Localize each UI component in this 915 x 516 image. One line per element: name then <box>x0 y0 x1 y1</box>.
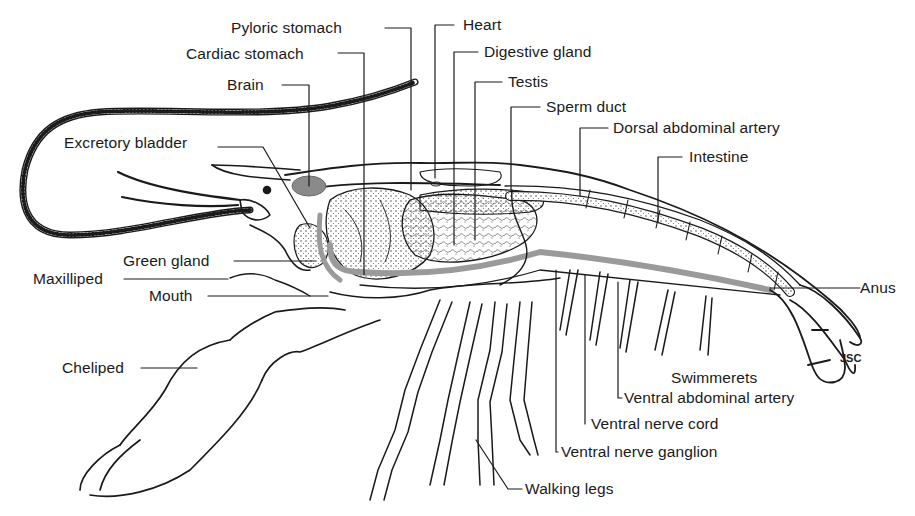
label-anus: Anus <box>860 279 896 297</box>
label-green-gland: Green gland <box>123 252 209 270</box>
cheliped <box>80 308 380 496</box>
label-ventral-abdominal-artery: Ventral abdominal artery <box>624 389 794 407</box>
walking-legs <box>330 278 560 500</box>
antennules <box>118 172 240 206</box>
label-dorsal-abdominal-artery: Dorsal abdominal artery <box>613 119 780 137</box>
label-intestine: Intestine <box>689 148 749 166</box>
label-pyloric-stomach: Pyloric stomach <box>231 19 342 37</box>
label-maxilliped: Maxilliped <box>33 270 103 288</box>
label-cardiac-stomach: Cardiac stomach <box>186 45 304 63</box>
label-swimmerets: Swimmerets <box>671 369 757 387</box>
label-walking-legs: Walking legs <box>525 480 614 498</box>
crayfish-anatomy-diagram: Pyloric stomach Cardiac stomach Brain Ex… <box>0 0 915 516</box>
maxilliped-shape <box>230 274 310 296</box>
label-ventral-nerve-ganglion: Ventral nerve ganglion <box>561 443 717 461</box>
label-excretory-bladder: Excretory bladder <box>64 134 187 152</box>
abdomen-tubes <box>505 186 800 292</box>
label-cheliped: Cheliped <box>62 359 124 377</box>
label-ventral-nerve-cord: Ventral nerve cord <box>591 415 719 433</box>
tail-fan <box>770 285 861 383</box>
label-heart: Heart <box>463 16 501 34</box>
swimmerets <box>560 270 712 355</box>
label-testis: Testis <box>508 73 548 91</box>
artist-signature: JSC <box>840 352 861 364</box>
label-sperm-duct: Sperm duct <box>546 98 626 116</box>
label-brain: Brain <box>227 76 264 94</box>
label-mouth: Mouth <box>149 287 193 305</box>
label-digestive-gland: Digestive gland <box>484 43 591 61</box>
